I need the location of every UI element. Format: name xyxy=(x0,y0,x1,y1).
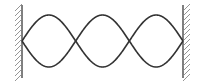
wave-lower-envelope xyxy=(22,15,183,67)
right-fixed-wall xyxy=(183,4,190,81)
wave-upper-envelope xyxy=(22,15,183,67)
left-fixed-wall xyxy=(15,4,22,81)
standing-wave-diagram xyxy=(0,0,205,81)
